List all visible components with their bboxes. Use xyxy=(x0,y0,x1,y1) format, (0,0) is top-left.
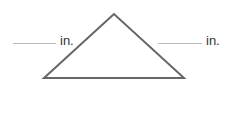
left-side-unit: in. xyxy=(60,34,74,47)
right-side-unit: in. xyxy=(206,34,220,47)
left-side-blank[interactable] xyxy=(13,43,56,44)
right-side-blank[interactable] xyxy=(158,43,202,44)
triangle-figure xyxy=(0,0,229,114)
